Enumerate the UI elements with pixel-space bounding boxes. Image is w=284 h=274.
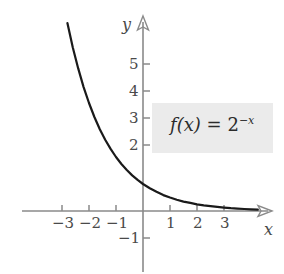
- y-tick-label-4: 4: [129, 84, 139, 99]
- x-tick-label--3: −3: [52, 216, 74, 231]
- formula-base: 2: [227, 114, 238, 135]
- y-tick-label-2: 2: [129, 138, 139, 153]
- x-tick-label--2: −2: [79, 216, 101, 231]
- x-tick-label-3: 3: [220, 216, 230, 231]
- x-axis-label: x: [264, 222, 273, 238]
- exponential-decay-figure: −3 −2 −1 1 2 3 5 4 3 2 −1 y x f(x) = 2−x: [0, 0, 284, 274]
- formula-exponent: −x: [239, 114, 254, 127]
- function-formula: f(x) = 2−x: [170, 116, 254, 134]
- formula-equals: =: [207, 114, 222, 135]
- x-tick-label-1: 1: [166, 216, 176, 231]
- y-tick-label-5: 5: [129, 57, 139, 72]
- y-tick-label--1: −1: [118, 231, 140, 246]
- x-tick-label-2: 2: [193, 216, 203, 231]
- y-tick-label-3: 3: [129, 111, 139, 126]
- formula-fn-name: f: [170, 114, 177, 135]
- formula-fn-arg: (x): [177, 114, 201, 135]
- y-axis-label: y: [122, 17, 131, 33]
